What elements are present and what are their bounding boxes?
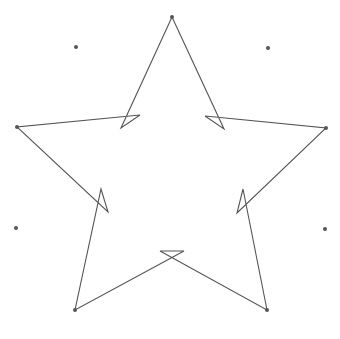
star-outline [17, 17, 326, 310]
vertex-dot [15, 125, 19, 129]
vertex-dot [324, 126, 328, 130]
free-dot [323, 227, 327, 231]
vertex-dots [15, 15, 328, 312]
free-dots [14, 45, 327, 231]
free-dot [266, 46, 270, 50]
free-dot [74, 45, 78, 49]
star-diagram-canvas [0, 0, 340, 339]
vertex-dot [170, 15, 174, 19]
star-diagram [0, 0, 340, 339]
free-dot [14, 226, 18, 230]
vertex-dot [265, 308, 269, 312]
vertex-dot [73, 308, 77, 312]
